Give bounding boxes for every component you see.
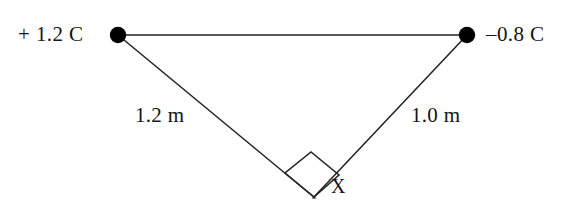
distance-label-left: 1.2 m	[135, 105, 184, 126]
charge-dot-left	[110, 27, 126, 43]
distance-label-right: 1.0 m	[411, 105, 460, 126]
charge-dot-right	[459, 27, 475, 43]
point-label-x: X	[331, 176, 345, 196]
charge-triangle-diagram: + 1.2 C –0.8 C 1.2 m 1.0 m X	[0, 0, 588, 216]
charge-label-left: + 1.2 C	[18, 24, 83, 45]
charge-label-right: –0.8 C	[486, 24, 544, 45]
